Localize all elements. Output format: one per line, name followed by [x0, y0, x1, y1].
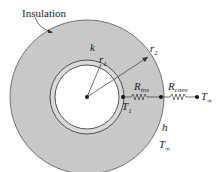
- R-conv-label: Rconv: [167, 80, 189, 94]
- resistor-conv: [170, 94, 186, 100]
- T-inf-ambient-label: T∞: [159, 138, 170, 153]
- node-Tinf: [195, 95, 199, 99]
- insulation-label: Insulation: [22, 7, 66, 19]
- h-label: h: [162, 121, 168, 133]
- T-inf-label: T∞: [201, 90, 212, 105]
- insulated-pipe-diagram: Insulation k r1 r2 Rins Rconv T1 T∞ h T∞: [0, 0, 223, 172]
